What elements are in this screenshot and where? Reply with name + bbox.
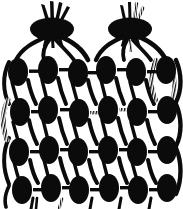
seed-ellipse-r4-c1 bbox=[12, 176, 32, 204]
artwork-canvas bbox=[0, 0, 183, 209]
seed-ellipse-r3-c4 bbox=[98, 136, 118, 164]
seed-ellipse-r1-c4 bbox=[96, 56, 116, 84]
seed-ellipse-r3-c6 bbox=[157, 136, 177, 164]
seed-ellipse-r2-c1 bbox=[10, 98, 30, 126]
seed-ellipse-r2-c2 bbox=[38, 96, 58, 124]
seed-ellipse-r2-c5 bbox=[127, 98, 147, 126]
bottom-tail bbox=[31, 198, 33, 209]
seed-ellipse-r4-c4 bbox=[99, 174, 119, 202]
seed-ellipse-r4-c3 bbox=[69, 176, 89, 204]
botanical-braid-illustration bbox=[0, 0, 183, 209]
seed-ellipse-r3-c3 bbox=[68, 138, 88, 166]
left-bulb-body bbox=[30, 18, 74, 41]
seed-ellipse-r1-c5 bbox=[126, 58, 146, 86]
seed-ellipse-r3-c1 bbox=[9, 138, 29, 166]
seed-ellipse-r3-c5 bbox=[127, 138, 147, 166]
seed-ellipse-r1-c6 bbox=[156, 56, 176, 84]
bottom-tail bbox=[90, 198, 92, 209]
tuft-blade bbox=[50, 1, 54, 19]
bottom-tail bbox=[149, 198, 151, 209]
seed-ellipse-r3-c2 bbox=[39, 136, 59, 164]
seed-ellipse-r2-c3 bbox=[69, 99, 89, 127]
seed-ellipse-r1-c1 bbox=[8, 58, 28, 86]
seed-ellipse-r2-c4 bbox=[98, 96, 118, 124]
seed-ellipse-r1-c3 bbox=[68, 59, 88, 87]
seed-ellipse-r4-c5 bbox=[128, 176, 148, 204]
seed-ellipse-r1-c2 bbox=[38, 56, 58, 84]
bottom-tail bbox=[36, 198, 37, 209]
tuft-blade bbox=[128, 2, 132, 19]
seed-ellipse-r4-c6 bbox=[157, 174, 177, 202]
right-bulb-body bbox=[108, 18, 152, 41]
seed-ellipse-r2-c6 bbox=[157, 96, 177, 124]
bottom-tail bbox=[119, 198, 121, 209]
seed-ellipse-r4-c2 bbox=[41, 174, 61, 202]
